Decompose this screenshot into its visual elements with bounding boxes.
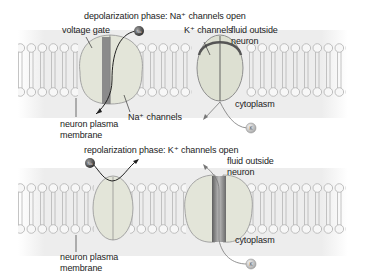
depolarization-title: depolarization phase: Na⁺ channels open: [84, 11, 246, 21]
lipid-bilayer: [18, 40, 346, 100]
cytoplasm-label: cytoplasm: [235, 99, 275, 109]
repolarization-diagram: Na K: [0, 140, 371, 279]
repolarization-panel: Na K repolarization phase: K⁺ channels o…: [0, 140, 371, 279]
depolarization-panel: Na K depolarization phase: Na⁺ channels …: [0, 0, 371, 140]
fluid-outside-label-2: neuron: [231, 36, 258, 46]
membrane-label: neuron plasma: [60, 252, 118, 262]
repolarization-title: repolarization phase: K⁺ channels open: [84, 145, 238, 155]
na-channel-closed: [93, 176, 133, 240]
svg-text:K: K: [249, 126, 252, 131]
membrane-label: neuron plasma: [60, 119, 118, 129]
membrane-label-2: membrane: [60, 263, 102, 273]
voltage-gate-label: voltage gate: [62, 25, 110, 35]
cytoplasm-label: cytoplasm: [235, 235, 275, 245]
k-channels-label: K⁺ channels: [184, 25, 232, 35]
fluid-outside-label: fluid outside: [227, 156, 274, 166]
svg-text:Na: Na: [136, 29, 142, 34]
svg-text:K: K: [249, 262, 252, 267]
membrane-label-2: membrane: [60, 130, 102, 140]
depolarization-diagram: Na K: [0, 0, 371, 140]
na-channel-open: [80, 35, 143, 104]
lipid-bilayer: [18, 180, 346, 238]
fluid-outside-label-2: neuron: [227, 167, 254, 177]
fluid-outside-label: fluid outside: [231, 25, 278, 35]
na-channels-label: Na⁺ channels: [128, 112, 182, 122]
svg-text:Na: Na: [87, 161, 93, 166]
